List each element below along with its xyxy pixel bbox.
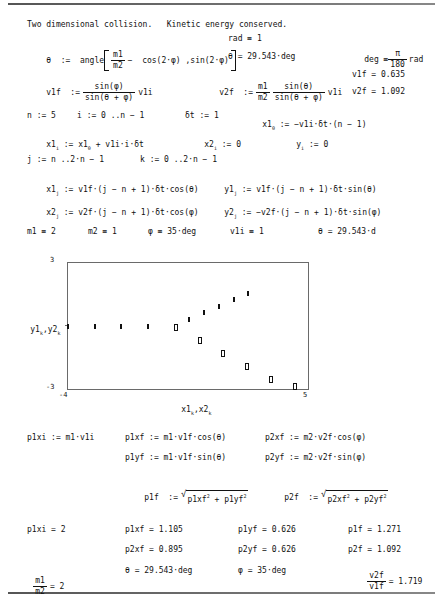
m1-value: m1 ≡ 2 [27, 227, 56, 236]
v1i-value: v1i ≡ 1 [230, 227, 264, 236]
data-point [67, 324, 69, 329]
mass-ratio-result-fraction: m1m2 [33, 577, 47, 596]
p1xi-value: p1xi = 2 [27, 525, 66, 534]
data-point [221, 350, 225, 357]
rad-definition: rad ≡ 1 [228, 34, 262, 43]
theta-value-top: θ = 29.543·deg [228, 52, 295, 61]
worksheet-page: Two dimensional collision. Kinetic energ… [0, 0, 443, 605]
y-axis-tick-label-top: 3 [50, 256, 54, 264]
n-definition: n := 5 [27, 111, 56, 120]
v1f-definition: v1f :=sin(φ)sin(θ + φ)v1i [27, 74, 153, 111]
top-divider-rule [8, 3, 435, 5]
deg-fraction: π180 [388, 50, 406, 69]
y-i-body: := 0 [309, 140, 328, 149]
data-point [293, 383, 297, 390]
y-axis-label-b: ,y2 [43, 325, 57, 334]
x1-i-head: x1 [46, 140, 56, 149]
y-axis-label: y1k,y2k [11, 316, 60, 347]
p1f-radicand-b: + p1yf [215, 495, 244, 504]
p1f-definition-label: p1f := [144, 493, 178, 502]
x2-i-head: x2 [204, 140, 214, 149]
theta-final-value: θ = 29.543·deg [125, 566, 192, 575]
p2yf-value: p2yf = 0.626 [238, 545, 296, 554]
p2xf-definition: p2xf := m2·v2f·cos(φ) [265, 433, 366, 442]
x1-initial-head: x1 [262, 120, 272, 129]
data-point [247, 291, 249, 296]
v2f-mass-fraction: m1m2 [256, 83, 270, 102]
deg-definition-label: deg ≡ [364, 55, 388, 64]
p1f-definition: p1f :=√p1xf2 + p1yf2 [125, 481, 248, 513]
matrix-bracket: m1m2− cos(2·φ) ,sin(2·φ) [104, 50, 236, 71]
x-axis-label-a: x1 [181, 405, 191, 414]
phi-final-value: φ = 35·deg [238, 566, 286, 575]
p1f-radical: √p1xf2 + p1yf2 [181, 490, 248, 504]
data-point [218, 304, 220, 309]
mass-ratio-fraction: m1m2 [111, 51, 125, 70]
velocity-ratio-value: = 1.719 [386, 577, 423, 586]
x1-i-body-b: + v1i·i·δt [96, 140, 144, 149]
y1-j-subscript: j [234, 190, 237, 196]
scatter-plot[interactable] [67, 262, 309, 390]
p2f-definition-label: p2f := [284, 493, 318, 502]
y2-j-head: y2 [224, 208, 234, 217]
y-axis-tick-label-bottom: -3 [46, 383, 54, 391]
v2f-definition-tail: v1i [325, 88, 342, 97]
x1-initial-body: := −v1i·δt·(n − 1) [280, 120, 367, 129]
v2f-definition-label: v2f := [219, 88, 253, 97]
deg-definition-unit: rad [407, 55, 423, 64]
data-point [94, 324, 96, 329]
x-axis-tick-label-right: 5 [303, 391, 307, 399]
theta-value-truncated: θ = 29.543·d [318, 227, 376, 236]
p1yf-definition: p1yf := m1·v1f·sin(θ) [125, 453, 226, 462]
x1-j-body: := v1f·(j − n + 1)·δt·cos(θ) [64, 185, 199, 194]
data-point [269, 376, 273, 383]
phi-value: φ ≡ 35·deg [148, 227, 196, 236]
x1-j-head: x1 [46, 185, 56, 194]
p1xf-definition: p1xf := m1·v1f·cos(θ) [125, 433, 226, 442]
y-i-subscript: i [301, 145, 304, 151]
p1f-exponent-a: 2 [207, 493, 210, 499]
x2-j-head: x2 [46, 208, 56, 217]
data-point [203, 310, 205, 315]
p2yf-definition: p2yf := m2·v2f·sin(φ) [265, 453, 366, 462]
v1f-fraction: sin(φ)sin(θ + φ) [83, 83, 135, 102]
p2f-definition: p2f :=√p2xf2 + p2yf2 [265, 481, 388, 513]
y-axis-label-a: y1 [30, 325, 40, 334]
v1f-definition-label: v1f := [46, 88, 80, 97]
j-definition: j := n ..2·n − 1 [27, 155, 104, 164]
x1-i-body-subscript: 0 [88, 145, 91, 151]
p2f-radicand-b: + p2yf [355, 495, 384, 504]
y2-j-subscript: j [234, 213, 237, 219]
m2-value: m2 ≡ 1 [88, 227, 117, 236]
x-axis-label-b: ,x2 [194, 405, 208, 414]
x2-i-subscript: i [214, 145, 217, 151]
x2-i-body: := 0 [222, 140, 241, 149]
data-point [198, 337, 202, 344]
x2-j-definition: x2j := v2f·(j − n + 1)·δt·cos(φ) [27, 199, 199, 230]
p1yf-value: p1yf = 0.626 [238, 525, 296, 534]
p1f-exponent-b: 2 [243, 493, 246, 499]
y2-j-definition: y2j := −v2f·(j − n + 1)·δt·sin(φ) [205, 199, 381, 230]
velocity-ratio-result: v2fv1f= 1.719 [348, 563, 422, 600]
i-definition: i := 0 ..n − 1 [77, 111, 144, 120]
v2f-sine-fraction: sin(θ)sin(θ + φ) [273, 83, 325, 102]
x1-j-subscript: j [56, 190, 59, 196]
k-definition: k := 0 ..2·n − 1 [140, 155, 217, 164]
x1-i-subscript: i [56, 145, 59, 151]
v1f-value: v1f = 0.635 [352, 70, 405, 79]
theta-definition-rest: − cos(2·φ) ,sin(2·φ) [125, 56, 229, 65]
p1f-value: p1f = 1.271 [348, 525, 401, 534]
p2f-radicand-a: p2xf [327, 495, 346, 504]
velocity-ratio-fraction: v2fv1f [367, 572, 385, 591]
theta-definition-label: θ := angle [46, 56, 104, 65]
x1-i-body-a: := x1 [64, 140, 88, 149]
data-point [120, 324, 122, 329]
p2f-value: p2f = 1.092 [348, 545, 401, 554]
data-point [147, 324, 149, 329]
data-point [188, 317, 190, 322]
p2f-exponent-a: 2 [347, 493, 350, 499]
p1xf-value: p1xf = 1.105 [125, 525, 183, 534]
y-axis-label-b-sub: k [57, 330, 60, 336]
p2f-exponent-b: 2 [383, 493, 386, 499]
v2f-value: v2f = 1.092 [352, 87, 405, 96]
